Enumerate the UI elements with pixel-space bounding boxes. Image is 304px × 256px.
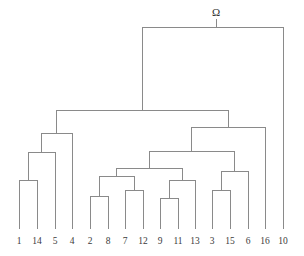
leaf-stems-group xyxy=(19,27,283,229)
leaf-label-8: 8 xyxy=(106,236,111,246)
dendrogram-figure: Ω 11454287129111331561610 xyxy=(0,0,304,256)
leaf-label-2: 2 xyxy=(88,236,93,246)
leaf-label-6: 6 xyxy=(246,236,251,246)
leaf-label-11: 11 xyxy=(173,236,182,246)
leaf-label-14: 14 xyxy=(32,236,42,246)
leaf-label-15: 15 xyxy=(225,236,235,246)
leaf-label-3: 3 xyxy=(210,236,215,246)
tree-links-group xyxy=(19,27,283,198)
leaf-labels-group: 11454287129111331561610 xyxy=(17,236,288,246)
leaf-label-4: 4 xyxy=(70,236,75,246)
leaf-label-13: 13 xyxy=(190,236,200,246)
leaf-label-12: 12 xyxy=(138,236,148,246)
root-label: Ω xyxy=(212,6,220,18)
leaf-label-9: 9 xyxy=(158,236,163,246)
leaf-label-16: 16 xyxy=(260,236,270,246)
leaf-label-7: 7 xyxy=(123,236,128,246)
leaf-label-10: 10 xyxy=(278,236,288,246)
leaf-label-1: 1 xyxy=(17,236,22,246)
leaf-label-5: 5 xyxy=(53,236,58,246)
root-marker-group: Ω xyxy=(212,6,220,27)
dendrogram-canvas: Ω 11454287129111331561610 xyxy=(0,0,304,256)
